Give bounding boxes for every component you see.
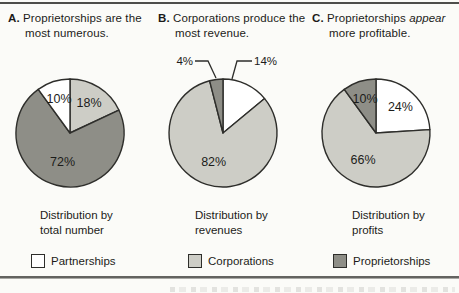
- bottom-rule: [0, 276, 459, 279]
- legend: Partnerships Corporations Proprietorship…: [0, 253, 459, 271]
- three-pie-figure: A. Proprietorships are the most numerous…: [0, 0, 459, 293]
- panel-c-title-line2: more profitable.: [329, 26, 446, 41]
- panel-b-caption: Distribution by revenues: [195, 208, 268, 238]
- proprietorships-swatch: [333, 254, 347, 268]
- callout-leader-line: [195, 61, 216, 78]
- slice-value-label: 10%: [352, 92, 377, 106]
- slice-value-label: 72%: [50, 155, 75, 169]
- partnerships-swatch: [31, 254, 45, 268]
- corporations-swatch: [188, 254, 202, 268]
- panel-b-title-line2: most revenue.: [175, 26, 305, 41]
- panel-a-caption: Distribution by total number: [40, 208, 113, 238]
- panel-c-caption: Distribution by profits: [352, 208, 425, 238]
- cut-off-caption-remnant: [170, 287, 455, 292]
- callout-leader-line: [232, 61, 252, 79]
- callout-value-label: 14%: [254, 55, 277, 67]
- panel-b-title-text: Corporations produce the: [173, 12, 305, 24]
- slice-value-label: 66%: [351, 153, 376, 167]
- pie-chart-total-number: 18%72%10%: [0, 48, 153, 200]
- legend-item-corporations: Corporations: [188, 254, 274, 268]
- panel-b: B. Corporations produce the most revenue…: [153, 0, 306, 250]
- legend-label: Proprietorships: [353, 255, 430, 267]
- panel-b-title: B. Corporations produce the most revenue…: [158, 11, 305, 41]
- slice-value-label: 82%: [201, 155, 226, 169]
- legend-item-proprietorships: Proprietorships: [333, 254, 430, 268]
- panel-b-letter: B.: [158, 12, 170, 24]
- panel-a: A. Proprietorships are the most numerous…: [0, 0, 153, 250]
- panel-a-title-line2: most numerous.: [25, 26, 142, 41]
- slice-value-label: 10%: [46, 92, 71, 106]
- slice-value-label: 18%: [77, 96, 102, 110]
- panel-c-title: C. Proprietorships appear more profitabl…: [312, 11, 446, 41]
- legend-label: Partnerships: [51, 255, 116, 267]
- slice-value-label: 24%: [388, 100, 413, 114]
- panel-c: C. Proprietorships appear more profitabl…: [306, 0, 459, 250]
- panel-c-letter: C.: [312, 12, 324, 24]
- panel-a-title: A. Proprietorships are the most numerous…: [8, 11, 142, 41]
- legend-label: Corporations: [208, 255, 274, 267]
- panel-a-letter: A.: [8, 12, 20, 24]
- panel-a-title-text: Proprietorships are the: [23, 12, 142, 24]
- pie-chart-revenues: 14%82%4%: [153, 48, 306, 200]
- panel-c-title-text: Proprietorships: [327, 12, 409, 24]
- callout-value-label: 4%: [176, 55, 193, 67]
- pie-chart-profits: 24%66%10%: [306, 48, 459, 200]
- legend-item-partnerships: Partnerships: [31, 254, 116, 268]
